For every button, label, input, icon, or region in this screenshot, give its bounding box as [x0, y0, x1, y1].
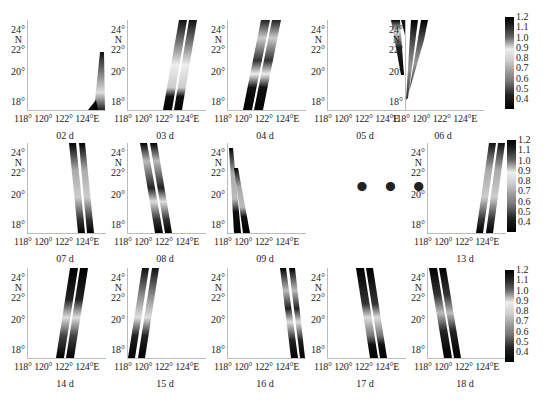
ytick-22: 22°: [211, 293, 225, 303]
panel-02d: 24° N 22° 20° 18° 118° 120° 122° 124°E 0…: [0, 20, 104, 140]
colorbar-ticks: 1.2 1.1 1.0 0.9 0.8 0.7 0.6 0.5 0.4: [516, 12, 529, 105]
swath-plot: [428, 143, 506, 233]
ytick-22: 22°: [11, 168, 25, 178]
swath-plot: [228, 20, 306, 110]
swath-plot: [406, 20, 484, 110]
swath-plot: [128, 20, 206, 110]
panel-label: 09 d: [200, 253, 330, 264]
swath-plot: [228, 143, 306, 233]
colorbar-ticks: 1.2 1.1 1.0 0.9 0.8 0.7 0.6 0.5 0.4: [516, 265, 529, 358]
ytick-18: 18°: [11, 97, 25, 107]
x-axis-ticks: 118° 120° 122° 124°E: [392, 113, 477, 124]
x-axis-ticks: 118° 120° 122° 124°E: [14, 236, 99, 247]
x-axis-ticks: 118° 120° 122° 124°E: [214, 113, 299, 124]
ytick-20: 20°: [389, 67, 403, 77]
cb-tick: 0.4: [518, 217, 531, 227]
panel-08d: 24° N 22° 20° 18° 118° 120° 122° 124°E 0…: [100, 143, 204, 263]
swath-plot: [228, 268, 306, 358]
swath-plot: [28, 143, 106, 233]
ytick-20: 20°: [211, 67, 225, 77]
cb-tick: 0.4: [516, 94, 529, 104]
panel-label: 13 d: [400, 253, 530, 264]
panel-label: 06 d: [378, 130, 508, 141]
ytick-20: 20°: [311, 315, 325, 325]
ytick-22: 22°: [311, 293, 325, 303]
ytick-18: 18°: [11, 220, 25, 230]
colorbar: [507, 140, 516, 232]
panel-06d: 24° N 22° 20° 18° 118° 120° 122° 124°E 0…: [378, 20, 482, 140]
ytick-20: 20°: [111, 315, 125, 325]
ytick-18: 18°: [11, 345, 25, 355]
map-axes: [227, 143, 306, 234]
panel-15d: 24° N 22° 20° 18° 118° 120° 122° 124°E 1…: [100, 268, 204, 388]
x-axis-ticks: 118° 120° 122° 124°E: [414, 361, 499, 372]
ytick-22: 22°: [211, 45, 225, 55]
x-axis-ticks: 118° 120° 122° 124°E: [14, 361, 99, 372]
map-axes: [427, 268, 506, 359]
ytick-22: 22°: [211, 168, 225, 178]
map-axes: [27, 20, 106, 111]
swath-plot: [328, 268, 406, 358]
panel-18d: 24° N 22° 20° 18° 118° 120° 122° 124°E 1…: [400, 268, 504, 388]
colorbar: [505, 17, 514, 109]
x-axis-ticks: 118° 120° 122° 124°E: [214, 361, 299, 372]
ytick-22: 22°: [111, 45, 125, 55]
map-axes: [227, 20, 306, 111]
map-axes: [427, 143, 506, 234]
panel-03d: 24° N 22° 20° 18° 118° 120° 122° 124°E 0…: [100, 20, 204, 140]
map-axes: [127, 20, 206, 111]
ytick-22: 22°: [389, 45, 403, 55]
swath-plot: [428, 268, 506, 358]
ytick-18: 18°: [411, 345, 425, 355]
ytick-22: 22°: [11, 45, 25, 55]
panel-07d: 24° N 22° 20° 18° 118° 120° 122° 124°E 0…: [0, 143, 104, 263]
ytick-20: 20°: [411, 190, 425, 200]
ytick-22: 22°: [311, 45, 325, 55]
map-axes: [405, 20, 484, 111]
panel-16d: 24° N 22° 20° 18° 118° 120° 122° 124°E 1…: [200, 268, 304, 388]
colorbar: [505, 270, 514, 362]
ytick-18: 18°: [211, 220, 225, 230]
map-axes: [27, 268, 106, 359]
ytick-18: 18°: [111, 97, 125, 107]
map-axes: [127, 268, 206, 359]
swath-plot: [28, 20, 106, 110]
panel-label: 18 d: [400, 378, 530, 389]
colorbar-ticks: 1.2 1.1 1.0 0.9 0.8 0.7 0.6 0.5 0.4: [518, 135, 531, 228]
map-axes: [227, 268, 306, 359]
x-axis-ticks: 118° 120° 122° 124°E: [14, 113, 99, 124]
x-axis-ticks: 118° 120° 122° 124°E: [114, 361, 199, 372]
x-axis-ticks: 118° 120° 122° 124°E: [314, 361, 399, 372]
map-axes: [327, 268, 406, 359]
ytick-18: 18°: [211, 345, 225, 355]
panel-14d: 24° N 22° 20° 18° 118° 120° 122° 124°E 1…: [0, 268, 104, 388]
panel-09d: 24° N 22° 20° 18° 118° 120° 122° 124°E 0…: [200, 143, 304, 263]
ytick-20: 20°: [111, 190, 125, 200]
ytick-22: 22°: [111, 168, 125, 178]
ytick-18: 18°: [211, 97, 225, 107]
map-axes: [27, 143, 106, 234]
panel-17d: 24° N 22° 20° 18° 118° 120° 122° 124°E 1…: [300, 268, 404, 388]
ytick-20: 20°: [311, 67, 325, 77]
swath-plot: [128, 268, 206, 358]
ytick-22: 22°: [111, 293, 125, 303]
ytick-18: 18°: [389, 97, 403, 107]
ytick-20: 20°: [411, 315, 425, 325]
cb-tick: 0.4: [516, 347, 529, 357]
map-axes: [127, 143, 206, 234]
ytick-18: 18°: [111, 220, 125, 230]
ytick-18: 18°: [311, 345, 325, 355]
ytick-22: 22°: [411, 293, 425, 303]
ytick-22: 22°: [411, 168, 425, 178]
x-axis-ticks: 118° 120° 122° 124°E: [114, 236, 199, 247]
swath-plot: [28, 268, 106, 358]
panel-13d: 24° N 22° 20° 18° 118° 120° 122° 124°E 1…: [400, 143, 504, 263]
ytick-18: 18°: [311, 97, 325, 107]
ytick-20: 20°: [211, 315, 225, 325]
x-axis-ticks: 118° 120° 122° 124°E: [414, 236, 499, 247]
ytick-22: 22°: [11, 293, 25, 303]
x-axis-ticks: 118° 120° 122° 124°E: [214, 236, 299, 247]
swath-plot: [128, 143, 206, 233]
x-axis-ticks: 118° 120° 122° 124°E: [114, 113, 199, 124]
ytick-20: 20°: [11, 190, 25, 200]
